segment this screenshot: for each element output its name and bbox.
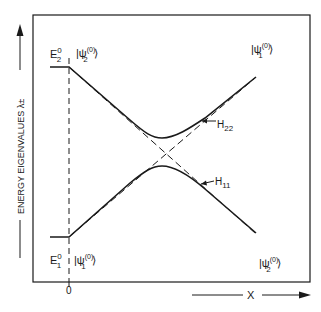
y-arrow-head-icon (17, 24, 24, 36)
x-tick-zero: 0 (66, 285, 72, 296)
h22-label: H22 (217, 119, 234, 133)
psi2-upper-left-label: |ψ(0)2⟩ (76, 46, 98, 64)
h11-arrow-icon (201, 181, 207, 186)
psi1-lower-left-label: |ψ(0)1⟩ (74, 253, 96, 271)
psi2-lower-right-label: |ψ(0)2⟩ (259, 256, 281, 274)
x-axis-label: X (247, 289, 255, 301)
energy-level-diagram: H22 H11 E02 |ψ(0)2⟩ E01 |ψ(0)1⟩ |ψ(0)1⟩ … (0, 0, 321, 312)
e1-zero-label: E01 (50, 252, 62, 270)
e2-zero-label: E02 (50, 46, 62, 64)
y-axis-label: ENERGY EIGENVALUES λ± (16, 99, 26, 214)
x-arrow-head-icon (299, 292, 311, 299)
lower-eigenvalue-curve (50, 166, 256, 237)
psi1-upper-right-label: |ψ(0)1⟩ (251, 42, 273, 60)
plot-frame (33, 15, 310, 282)
h11-label: H11 (215, 176, 231, 190)
